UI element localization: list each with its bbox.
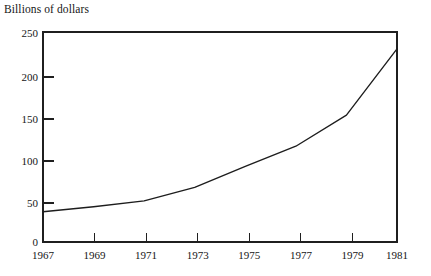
x-tick-label-1977: 1977 (290, 249, 313, 261)
y-tick-label-0: 0 (33, 236, 39, 248)
x-tick-label-1979: 1979 (341, 249, 364, 261)
x-tick-label-1969: 1969 (84, 249, 107, 261)
x-tick-label-1973: 1973 (187, 249, 210, 261)
y-tick-label-250: 250 (22, 27, 39, 39)
chart-figure: Billions of dollars 0 50 100 150 200 (0, 0, 431, 276)
x-tick-label-1971: 1971 (135, 249, 157, 261)
y-tick-label-200: 200 (22, 71, 39, 83)
y-tick-label-100: 100 (22, 155, 39, 167)
x-tick-label-1975: 1975 (238, 249, 261, 261)
x-axis-labels: 1967 1969 1971 1973 1975 1977 1979 1981 (32, 249, 408, 261)
y-axis-labels: 0 50 100 150 200 250 (22, 27, 39, 248)
y-tick-label-150: 150 (22, 113, 39, 125)
x-tick-label-1981: 1981 (386, 249, 408, 261)
line-chart-plot: 0 50 100 150 200 250 1967 1969 1971 1973… (0, 0, 431, 276)
y-axis-ticks (43, 77, 54, 203)
y-tick-label-50: 50 (27, 197, 39, 209)
x-tick-label-1967: 1967 (32, 249, 55, 261)
x-axis-ticks (95, 233, 353, 242)
plot-frame (43, 32, 397, 242)
data-series-line (43, 49, 397, 212)
